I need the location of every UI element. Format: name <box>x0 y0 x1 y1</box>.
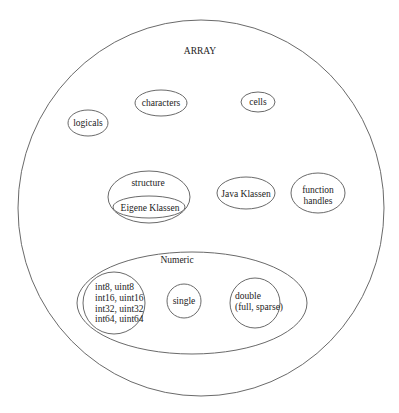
logicals-label: logicals <box>73 118 103 128</box>
function-handles-label-line2: handles <box>303 196 332 206</box>
numeric-label: Numeric <box>160 255 193 265</box>
java-klassen-label: Java Klassen <box>221 189 271 199</box>
integer-type-line-4: int64, uint64 <box>95 314 144 324</box>
array-container <box>18 20 384 396</box>
array-title: ARRAY <box>184 46 217 56</box>
single-label: single <box>173 296 196 306</box>
characters-label: characters <box>142 98 181 108</box>
eigene-klassen-label: Eigene Klassen <box>121 203 180 213</box>
double-label-line1: double <box>235 291 261 301</box>
array-class-diagram: ARRAY characters cells logicals structur… <box>0 0 399 413</box>
integer-type-line-2: int16, uint16 <box>95 293 144 303</box>
cells-label: cells <box>249 97 267 107</box>
function-handles-label-line1: function <box>302 185 334 195</box>
double-label-line2: (full, sparse) <box>235 302 283 313</box>
structure-label: structure <box>131 178 164 188</box>
integer-type-line-3: int32, uint32 <box>95 304 144 314</box>
integer-type-line-1: int8, uint8 <box>95 282 134 292</box>
